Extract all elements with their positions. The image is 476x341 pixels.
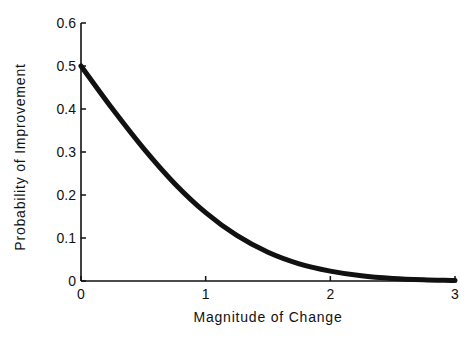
y-tick-label: 0.1 <box>57 230 77 246</box>
y-axis-title: Probability of Improvement <box>12 63 28 250</box>
y-tick-label: 0.2 <box>57 187 77 203</box>
x-tick-label: 1 <box>202 286 210 302</box>
x-axis-title: Magnitude of Change <box>193 309 342 325</box>
axes <box>81 23 455 281</box>
chart: 00.10.20.30.40.50.6 0123 Magnitude of Ch… <box>0 0 476 341</box>
probability-curve <box>81 66 455 281</box>
y-tick-label: 0.5 <box>57 58 77 74</box>
y-tick-label: 0 <box>68 273 76 289</box>
x-tick-labels: 0123 <box>77 286 459 302</box>
x-tick-label: 3 <box>451 286 459 302</box>
y-tick-label: 0.6 <box>57 15 77 31</box>
y-tick-label: 0.4 <box>57 101 77 117</box>
y-tick-labels: 00.10.20.30.40.50.6 <box>57 15 77 289</box>
x-tick-label: 0 <box>77 286 85 302</box>
y-tick-label: 0.3 <box>57 144 77 160</box>
x-tick-label: 2 <box>326 286 334 302</box>
